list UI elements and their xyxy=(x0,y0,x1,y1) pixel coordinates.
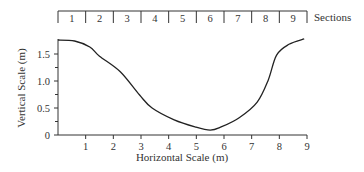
y-tick-label: 1.5 xyxy=(37,49,50,60)
section-label: 3 xyxy=(125,13,130,24)
section-label: 6 xyxy=(208,13,213,24)
chart: 123456789 Sections 123456789 00.51.01.5 … xyxy=(0,0,364,172)
x-tick-label: 7 xyxy=(249,141,254,152)
sections-bar: 123456789 xyxy=(58,11,307,24)
section-label: 9 xyxy=(291,13,296,24)
y-ticks: 00.51.01.5 xyxy=(37,49,58,141)
x-axis-title: Horizontal Scale (m) xyxy=(136,151,229,164)
x-tick-label: 9 xyxy=(304,141,309,152)
x-tick-label: 2 xyxy=(111,141,116,152)
y-tick-label: 1.0 xyxy=(37,76,50,87)
section-label: 5 xyxy=(180,13,185,24)
sections-label: Sections xyxy=(314,11,351,23)
section-label: 1 xyxy=(69,13,74,24)
y-tick-label: 0.5 xyxy=(37,103,50,114)
x-ticks: 123456789 xyxy=(83,135,310,152)
x-tick-label: 8 xyxy=(277,141,282,152)
section-label: 7 xyxy=(235,13,240,24)
y-axis-title: Vertical Scale (m) xyxy=(15,48,28,128)
section-label: 2 xyxy=(97,13,102,24)
section-label: 4 xyxy=(152,13,158,24)
x-tick-label: 1 xyxy=(83,141,88,152)
y-tick-label: 0 xyxy=(45,130,50,141)
profile-line xyxy=(58,39,304,130)
section-label: 8 xyxy=(263,13,268,24)
